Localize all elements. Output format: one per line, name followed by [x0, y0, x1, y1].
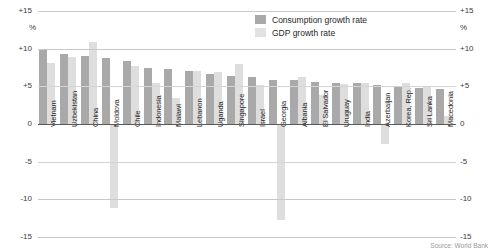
y-axis-tick-left-10: +10: [0, 45, 32, 53]
x-axis-label: El Salvador: [321, 90, 330, 127]
y-axis-unit-left: %: [4, 24, 36, 32]
x-axis-label: Sri Lanka: [425, 96, 434, 127]
bar-consumption: [60, 54, 68, 124]
bar-consumption: [311, 82, 319, 124]
x-axis-label: Vietnam: [49, 100, 58, 127]
y-axis-tick-right-15: +15: [460, 7, 474, 15]
bar-consumption: [248, 77, 256, 124]
bar-consumption: [102, 58, 110, 124]
y-axis-tick-right-neg5: -5: [460, 158, 467, 166]
x-axis-label: Uruguay: [342, 99, 351, 127]
y-axis-tick-left-0: 0: [0, 120, 32, 128]
y-axis-tick-left-neg15: -15: [0, 233, 32, 241]
x-axis-label: Singapore: [237, 94, 246, 127]
legend-item-consumption: Consumption growth rate: [255, 14, 367, 25]
y-axis-unit-right: %: [460, 24, 480, 32]
x-axis-label: Uzbekistan: [70, 91, 79, 127]
y-axis-tick-right-neg15: -15: [460, 233, 472, 241]
chart-container: VietnamUzbekistanChinaMoldovaChileIndone…: [0, 0, 494, 249]
x-axis-label: Lebanon: [195, 99, 204, 128]
plot-area: VietnamUzbekistanChinaMoldovaChileIndone…: [38, 11, 456, 237]
bar-consumption: [185, 71, 193, 124]
x-axis-label: Korea, Rep.: [404, 88, 413, 127]
bar-consumption: [164, 69, 172, 124]
gridline-5: [38, 86, 456, 87]
gridline-neg15: [38, 237, 456, 238]
bar-consumption: [123, 61, 131, 124]
bar-consumption: [436, 89, 444, 124]
gridline-neg5: [38, 162, 456, 163]
bar-consumption: [415, 88, 423, 124]
bar-gdp-negative: [110, 124, 118, 208]
legend-label-gdp: GDP growth rate: [272, 28, 335, 38]
legend-swatch-gdp-icon: [255, 28, 266, 37]
y-axis-tick-right-0: 0: [460, 120, 464, 128]
y-axis-tick-right-neg10: -10: [460, 195, 472, 203]
y-axis-tick-right-5: +5: [460, 82, 469, 90]
legend-swatch-consumption-icon: [255, 15, 266, 24]
gridline-10: [38, 49, 456, 50]
bar-consumption: [227, 76, 235, 124]
x-axis-label: Azerbaijan: [383, 93, 392, 127]
source-note: Source: World Bank: [430, 242, 488, 249]
y-axis-tick-left-neg10: -10: [0, 195, 32, 203]
x-axis-label: Moldova: [112, 99, 121, 127]
legend-label-consumption: Consumption growth rate: [272, 15, 367, 25]
gridline-0: [38, 124, 456, 125]
bar-consumption: [81, 56, 89, 124]
y-axis-tick-right-10: +10: [460, 45, 474, 53]
bar-consumption: [373, 85, 381, 124]
legend-item-gdp: GDP growth rate: [255, 27, 367, 38]
bar-consumption: [394, 86, 402, 124]
y-axis-tick-left-15: +15: [0, 7, 32, 15]
bar-consumption: [144, 68, 152, 124]
bar-consumption: [353, 83, 361, 124]
x-axis-label: Macedonia: [446, 91, 455, 127]
y-axis-tick-left-neg5: -5: [0, 158, 32, 166]
bar-consumption: [206, 74, 214, 124]
gridline-neg10: [38, 199, 456, 200]
bar-consumption: [332, 83, 340, 124]
x-axis-label: Indonesia: [154, 95, 163, 127]
bar-gdp-negative: [277, 124, 285, 220]
y-axis-tick-left-5: +5: [0, 82, 32, 90]
gridline-15: [38, 11, 456, 12]
chart-legend: Consumption growth rate GDP growth rate: [255, 14, 367, 40]
